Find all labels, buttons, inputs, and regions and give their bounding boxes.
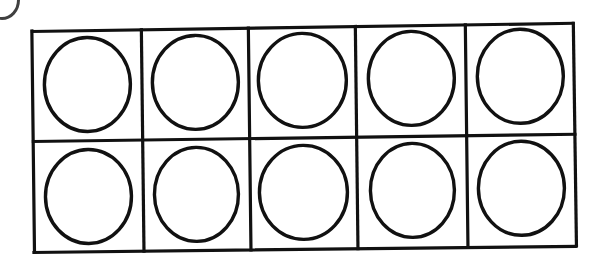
scan-artifact-icon <box>0 0 20 20</box>
counter-slot-r2c3[interactable] <box>261 145 347 242</box>
cell-r2c4[interactable] <box>358 136 468 250</box>
cell-r1c2[interactable] <box>139 25 249 139</box>
ten-frame-drawing <box>30 22 578 253</box>
counter-slot-r1c2[interactable] <box>151 33 237 130</box>
worksheet-canvas <box>0 0 605 260</box>
counter-slot-r2c4[interactable] <box>371 144 457 241</box>
counter-slot-r2c1[interactable] <box>43 148 129 245</box>
counter-slot-r2c2[interactable] <box>152 146 238 243</box>
cell-r1c3[interactable] <box>248 24 358 138</box>
cell-r2c5[interactable] <box>468 135 578 249</box>
counter-slot-r1c3[interactable] <box>260 32 346 129</box>
counter-slot-r1c5[interactable] <box>479 30 565 127</box>
cell-r2c1[interactable] <box>31 139 141 253</box>
counter-slot-r1c1[interactable] <box>42 35 128 132</box>
counter-slot-r2c5[interactable] <box>480 143 566 240</box>
cell-r1c5[interactable] <box>467 22 577 136</box>
counter-slot-r1c4[interactable] <box>370 31 456 128</box>
ten-frame-cells <box>30 22 578 253</box>
cell-r1c4[interactable] <box>357 23 467 137</box>
cell-r2c3[interactable] <box>249 137 359 251</box>
cell-r1c1[interactable] <box>30 26 140 140</box>
cell-r2c2[interactable] <box>140 138 250 252</box>
